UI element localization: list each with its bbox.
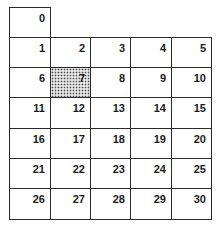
grid-cell-30: 30 [171, 188, 212, 220]
grid-cell-23: 23 [90, 158, 131, 189]
grid-cell-3: 3 [90, 37, 131, 68]
cell-label: 11 [33, 102, 45, 114]
cell-label: 27 [73, 193, 85, 205]
cell-label: 21 [33, 163, 45, 175]
grid-cell-18: 18 [90, 128, 131, 159]
grid-cell-11: 11 [9, 97, 51, 129]
cell-label: 2 [79, 42, 85, 54]
grid-cell-16: 16 [9, 128, 51, 159]
cell-label: 13 [113, 102, 125, 114]
grid-cell-29: 29 [130, 188, 172, 220]
grid-cell-22: 22 [50, 158, 91, 189]
grid-cell-15: 15 [171, 97, 212, 129]
grid-cell-28: 28 [90, 188, 131, 220]
cell-label: 20 [194, 133, 206, 145]
cell-label: 15 [194, 102, 206, 114]
grid-cell-13: 13 [90, 97, 131, 129]
cell-label: 25 [194, 163, 206, 175]
grid-cell-14: 14 [130, 97, 172, 129]
grid-cell-9: 9 [130, 67, 172, 98]
cell-label: 10 [194, 72, 206, 84]
grid-cell-25: 25 [171, 158, 212, 189]
cell-label: 0 [39, 12, 45, 24]
grid-cell-24: 24 [130, 158, 172, 189]
cell-label: 7 [79, 72, 85, 84]
cell-label: 28 [113, 193, 125, 205]
cell-label: 17 [73, 133, 85, 145]
grid-cell-6: 6 [9, 67, 51, 98]
cell-label: 24 [154, 163, 166, 175]
grid-cell-12: 12 [50, 97, 91, 129]
cell-label: 8 [119, 72, 125, 84]
cell-label: 4 [160, 42, 166, 54]
cell-label: 16 [33, 133, 45, 145]
grid-cell-26: 26 [9, 188, 51, 220]
cell-label: 23 [113, 163, 125, 175]
cell-label: 5 [200, 42, 206, 54]
cell-label: 22 [73, 163, 85, 175]
grid-cell-27: 27 [50, 188, 91, 220]
grid-cell-8: 8 [90, 67, 131, 98]
cell-label: 30 [194, 193, 206, 205]
grid-cell-0: 0 [9, 7, 51, 38]
cell-label: 26 [33, 193, 45, 205]
grid-cell-2: 2 [50, 37, 91, 68]
cell-label: 3 [119, 42, 125, 54]
cell-label: 14 [154, 102, 166, 114]
cell-label: 18 [113, 133, 125, 145]
grid-cell-19: 19 [130, 128, 172, 159]
cell-label: 12 [73, 102, 85, 114]
grid-cell-5: 5 [171, 37, 212, 68]
grid-cell-21: 21 [9, 158, 51, 189]
cell-label: 1 [39, 42, 45, 54]
cell-label: 6 [39, 72, 45, 84]
cell-label: 29 [154, 193, 166, 205]
cell-label: 19 [154, 133, 166, 145]
grid-cell-10: 10 [171, 67, 212, 98]
grid-cell-1: 1 [9, 37, 51, 68]
cell-label: 9 [160, 72, 166, 84]
grid-cell-17: 17 [50, 128, 91, 159]
grid-cell-7: 7 [50, 67, 91, 98]
grid-cell-4: 4 [130, 37, 172, 68]
grid-cell-20: 20 [171, 128, 212, 159]
